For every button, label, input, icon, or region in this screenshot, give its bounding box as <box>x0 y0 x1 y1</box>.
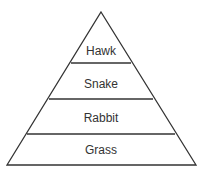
level-snake-label: Snake <box>0 77 202 91</box>
level-hawk-label: Hawk <box>0 44 202 58</box>
food-pyramid-diagram: Hawk Snake Rabbit Grass <box>0 0 202 174</box>
level-grass-label: Grass <box>0 143 202 157</box>
level-rabbit-label: Rabbit <box>0 111 202 125</box>
